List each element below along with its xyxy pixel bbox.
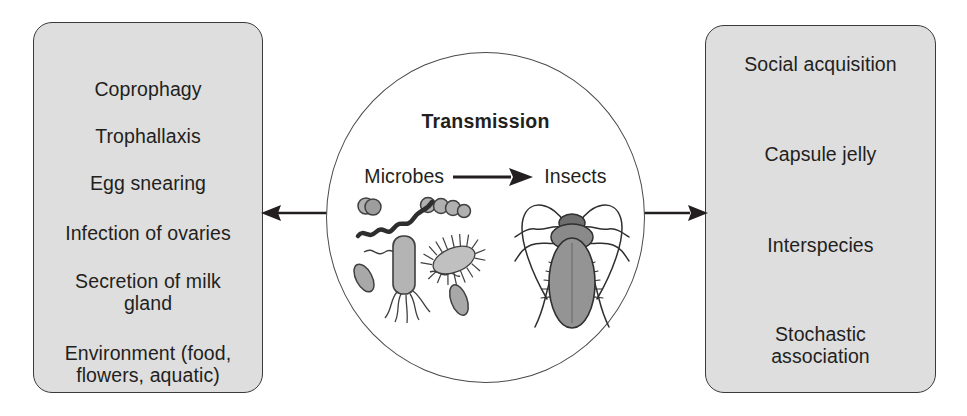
list-item: Secretion of milk gland bbox=[40, 270, 256, 314]
cockroach-illustration bbox=[513, 183, 633, 335]
figure-canvas: Coprophagy Trophallaxis Egg snearing Inf… bbox=[0, 0, 967, 416]
list-item: Trophallaxis bbox=[40, 125, 256, 147]
list-item: Capsule jelly bbox=[712, 143, 929, 165]
page-title: Transmission bbox=[326, 110, 645, 133]
bacteria-illustration bbox=[352, 188, 502, 328]
right-outcomes-panel: Social acquisition Capsule jelly Intersp… bbox=[705, 25, 936, 393]
list-item: Egg snearing bbox=[40, 172, 256, 194]
list-item: Social acquisition bbox=[712, 53, 929, 75]
list-item: Coprophagy bbox=[40, 78, 256, 100]
arrow-left-icon bbox=[258, 196, 332, 230]
list-item: Environment (food, flowers, aquatic) bbox=[40, 342, 256, 386]
list-item: Stochastic association bbox=[712, 323, 929, 367]
list-item: Interspecies bbox=[712, 234, 929, 256]
list-item: Infection of ovaries bbox=[40, 222, 256, 244]
flow-source-label: Microbes bbox=[364, 165, 444, 188]
left-outcomes-panel: Coprophagy Trophallaxis Egg snearing Inf… bbox=[33, 22, 263, 393]
arrow-right-icon bbox=[640, 196, 712, 230]
